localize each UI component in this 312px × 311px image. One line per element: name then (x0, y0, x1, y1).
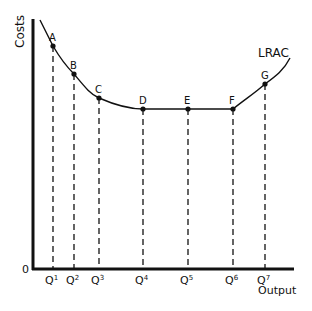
y-axis-label: Costs (13, 15, 27, 48)
point-e (185, 106, 190, 111)
point-label: E (184, 95, 190, 106)
x-tick-label: Q5 (180, 274, 193, 287)
origin-label: 0 (22, 263, 29, 276)
chart-canvas: Costs 0 Output LRAC AQ1BQ2CQ3DQ4EQ5FQ6GQ… (0, 0, 312, 311)
points-layer: AQ1BQ2CQ3DQ4EQ5FQ6GQ7 (45, 32, 270, 287)
point-label: D (139, 95, 147, 106)
point-c (96, 95, 101, 100)
point-label: C (95, 84, 102, 95)
x-tick-label: Q2 (66, 274, 79, 287)
point-f (230, 106, 235, 111)
x-tick-label: Q1 (45, 274, 58, 287)
point-label: G (261, 70, 269, 81)
point-d (140, 106, 145, 111)
point-b (71, 71, 76, 76)
x-tick-label: Q4 (135, 274, 149, 287)
point-label: F (229, 95, 235, 106)
x-tick-label: Q6 (225, 274, 239, 287)
point-g (262, 81, 267, 86)
point-label: A (49, 32, 56, 43)
point-a (50, 43, 55, 48)
x-tick-label: Q3 (91, 274, 104, 287)
curve-label: LRAC (258, 46, 289, 60)
point-label: B (70, 60, 77, 71)
lrac-chart: Costs 0 Output LRAC AQ1BQ2CQ3DQ4EQ5FQ6GQ… (0, 0, 312, 311)
lrac-curve (40, 20, 290, 109)
